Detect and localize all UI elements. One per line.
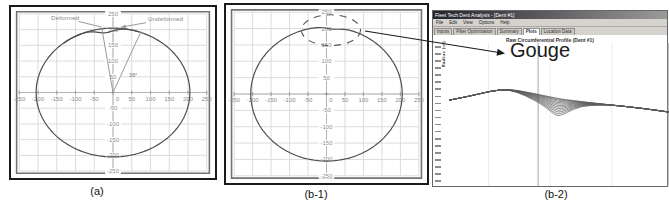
x-tick-label: 0 bbox=[116, 96, 119, 101]
y-tick-mark bbox=[435, 103, 441, 105]
leader-line bbox=[79, 21, 102, 27]
y-tick-label: -250 bbox=[321, 173, 333, 179]
x-tick-label: -100 bbox=[70, 96, 82, 101]
y-tick-label: -50 bbox=[109, 106, 118, 111]
y-tick-label: -100 bbox=[107, 121, 119, 126]
x-tick-label: 50 bbox=[128, 96, 135, 101]
tab-strip: InputsFilter OptimizationSummaryPlotsLoc… bbox=[433, 27, 667, 35]
x-tick-label: 250 bbox=[202, 96, 212, 101]
panel-b1: -250-200-150-100-50050100150200250-250-2… bbox=[224, 3, 429, 185]
y-tick-label: -50 bbox=[322, 108, 331, 114]
y-axis-label: Radius (in) bbox=[441, 41, 446, 67]
y-tick-label: 100 bbox=[322, 59, 332, 65]
y-tick-mark bbox=[435, 138, 441, 140]
y-tick-mark bbox=[435, 74, 441, 76]
y-tick-label: 250 bbox=[108, 11, 118, 16]
y-tick-mark bbox=[435, 88, 441, 90]
menu-item-options[interactable]: Options bbox=[479, 20, 495, 25]
x-tick-label: 200 bbox=[183, 96, 193, 101]
y-tick-mark bbox=[435, 53, 441, 55]
panel-a-plot: -250-200-150-100-50050100150200250-250-2… bbox=[11, 7, 215, 178]
tab-inputs[interactable]: Inputs bbox=[434, 28, 452, 35]
y-tick-mark bbox=[435, 131, 441, 133]
x-tick-label: 50 bbox=[342, 98, 349, 104]
y-tick-label: -150 bbox=[107, 137, 119, 142]
y-tick-mark bbox=[435, 67, 441, 69]
x-tick-label: 250 bbox=[414, 98, 424, 104]
y-tick-label: 150 bbox=[108, 43, 118, 48]
x-tick-label: -50 bbox=[90, 96, 99, 101]
angle-label: 38° bbox=[129, 73, 138, 78]
y-tick-mark bbox=[435, 110, 441, 112]
y-tick-label: 100 bbox=[108, 58, 118, 63]
y-tick-mark bbox=[435, 96, 441, 98]
y-tick-mark bbox=[435, 60, 441, 62]
y-tick-mark bbox=[435, 145, 441, 147]
y-tick-mark bbox=[435, 152, 441, 154]
x-tick-label: -50 bbox=[304, 98, 313, 104]
annotation-label: Deformed bbox=[51, 15, 79, 20]
x-tick-label: -100 bbox=[284, 98, 296, 104]
x-tick-label: -250 bbox=[228, 98, 240, 104]
tab-summary[interactable]: Summary bbox=[497, 28, 522, 35]
x-tick-label: -200 bbox=[247, 98, 259, 104]
profile-plot-area: Raw Circumferential Profile (Dent #1) Ra… bbox=[433, 35, 667, 186]
x-tick-label: -150 bbox=[51, 96, 63, 101]
menu-item-help[interactable]: Help bbox=[500, 20, 509, 25]
caption-a: (a) bbox=[90, 185, 103, 197]
panel-a: -250-200-150-100-50050100150200250-250-2… bbox=[9, 5, 217, 180]
caption-b2: (b-2) bbox=[544, 188, 567, 200]
y-tick-label: 50 bbox=[323, 75, 330, 81]
menu-item-edit[interactable]: Edit bbox=[449, 20, 457, 25]
gouge-annotation: Gouge bbox=[510, 39, 570, 62]
y-tick-mark bbox=[435, 81, 441, 83]
panel-b1-plot: -250-200-150-100-50050100150200250-250-2… bbox=[226, 5, 427, 183]
y-tick-mark bbox=[435, 166, 441, 168]
tab-location-data[interactable]: Location Data bbox=[541, 28, 575, 35]
profile-curves-plot bbox=[449, 43, 669, 186]
y-axis-ticks bbox=[435, 46, 441, 182]
annotation-label: Undeformed bbox=[148, 16, 183, 21]
y-tick-mark bbox=[435, 180, 441, 182]
arrowhead bbox=[121, 25, 126, 28]
y-tick-label: -150 bbox=[321, 140, 333, 146]
x-tick-label: 100 bbox=[359, 98, 369, 104]
x-tick-label: -150 bbox=[265, 98, 277, 104]
y-tick-mark bbox=[435, 124, 441, 126]
y-tick-mark bbox=[435, 46, 441, 48]
figure-canvas: -250-200-150-100-50050100150200250-250-2… bbox=[0, 0, 669, 209]
x-tick-label: 200 bbox=[395, 98, 405, 104]
profile-curve bbox=[64, 29, 140, 43]
app-window: Fleet Tech Dent Analysis - [Dent #1] Fil… bbox=[432, 10, 668, 187]
x-tick-label: -250 bbox=[13, 96, 25, 101]
window-titlebar[interactable]: Fleet Tech Dent Analysis - [Dent #1] bbox=[433, 11, 667, 19]
x-tick-label: 100 bbox=[146, 96, 156, 101]
y-tick-mark bbox=[435, 173, 441, 175]
caption-b1: (b-1) bbox=[304, 188, 327, 200]
tab-filter-optimization[interactable]: Filter Optimization bbox=[453, 28, 495, 35]
menu-item-file[interactable]: File bbox=[436, 20, 443, 25]
menu-bar: FileEditViewOptionsHelp bbox=[433, 19, 667, 27]
x-tick-label: 0 bbox=[329, 98, 332, 104]
x-tick-label: -200 bbox=[32, 96, 44, 101]
y-tick-label: 250 bbox=[322, 9, 332, 15]
x-tick-label: 150 bbox=[164, 96, 174, 101]
y-tick-label: -100 bbox=[321, 124, 333, 130]
tab-plots[interactable]: Plots bbox=[523, 28, 540, 35]
y-tick-mark bbox=[435, 159, 441, 161]
x-tick-label: 150 bbox=[377, 98, 387, 104]
menu-item-view[interactable]: View bbox=[463, 20, 473, 25]
y-tick-mark bbox=[435, 117, 441, 119]
y-tick-label: -250 bbox=[107, 168, 119, 173]
